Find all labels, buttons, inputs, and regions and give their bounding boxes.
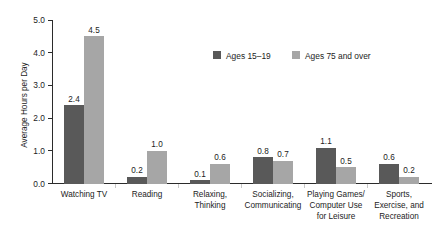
value-label-ages-15-19-watching-tv: 2.4 xyxy=(68,95,80,104)
value-label-ages-15-19-reading: 0.2 xyxy=(131,166,143,175)
value-label-ages-15-19-socializing-communicating: 0.8 xyxy=(257,147,269,156)
value-label-ages-15-19-sports-exercise-and-recreation: 0.6 xyxy=(383,153,395,162)
y-tick-label-2: 2.0 xyxy=(33,113,45,123)
value-label-ages-15-19-relaxing-thinking: 0.1 xyxy=(194,170,206,179)
y-tick-label-1: 1.0 xyxy=(33,146,45,156)
bar-ages-15-19-playing-games-computer-use-for-leisure xyxy=(316,148,336,184)
bar-ages-15-19-watching-tv xyxy=(64,105,84,183)
y-axis-title: Average Hours per Day xyxy=(20,61,29,147)
value-label-ages-15-19-playing-games-computer-use-for-leisure: 1.1 xyxy=(320,137,332,146)
bar-ages-15-19-reading xyxy=(127,177,147,184)
bar-ages-15-19-socializing-communicating xyxy=(253,157,273,183)
legend-swatch-ages-75-over xyxy=(292,51,300,59)
bar-ages-75-and-over-playing-games-computer-use-for-leisure xyxy=(336,167,356,183)
legend-label-ages-75-over: Ages 75 and over xyxy=(305,51,371,61)
category-label-playing-games-computer-use-for-leisure-line-2: for Leisure xyxy=(317,212,356,221)
category-label-playing-games-computer-use-for-leisure-line-1: Computer Use xyxy=(310,201,363,210)
bar-ages-75-and-over-watching-tv xyxy=(84,36,104,183)
bar-ages-15-19-relaxing-thinking xyxy=(190,180,210,183)
legend-swatch-ages-15-19 xyxy=(213,51,221,59)
chart-canvas: Average Hours per Day 0.0 1.0 2.0 3.0 4.… xyxy=(0,0,436,231)
value-label-ages-75-and-over-playing-games-computer-use-for-leisure: 0.5 xyxy=(340,157,352,166)
y-tick-label-3: 3.0 xyxy=(33,80,45,90)
bar-chart-figure: Average Hours per Day 0.0 1.0 2.0 3.0 4.… xyxy=(0,0,436,231)
category-label-playing-games-computer-use-for-leisure-line-0: Playing Games/ xyxy=(307,190,366,199)
category-label-sports-exercise-and-recreation-line-1: Exercise, and xyxy=(374,201,424,210)
value-label-ages-75-and-over-relaxing-thinking: 0.6 xyxy=(214,153,226,162)
value-label-ages-75-and-over-watching-tv: 4.5 xyxy=(88,26,100,35)
y-tick-label-0: 0.0 xyxy=(33,179,45,189)
value-label-ages-75-and-over-reading: 1.0 xyxy=(151,140,163,149)
bar-ages-75-and-over-sports-exercise-and-recreation xyxy=(399,177,419,184)
category-label-watching-tv-line-0: Watching TV xyxy=(61,190,108,199)
category-label-sports-exercise-and-recreation-line-0: Sports, xyxy=(386,190,412,199)
category-label-relaxing-thinking-line-0: Relaxing, xyxy=(193,190,227,199)
legend-label-ages-15-19: Ages 15–19 xyxy=(226,51,271,61)
category-label-socializing-communicating-line-0: Socializing, xyxy=(252,190,293,199)
bar-ages-75-and-over-relaxing-thinking xyxy=(210,164,230,184)
y-tick-label-4: 4.0 xyxy=(33,48,45,58)
bar-ages-15-19-sports-exercise-and-recreation xyxy=(379,164,399,184)
value-label-ages-75-and-over-sports-exercise-and-recreation: 0.2 xyxy=(403,166,415,175)
category-label-reading-line-0: Reading xyxy=(132,190,163,199)
value-label-ages-75-and-over-socializing-communicating: 0.7 xyxy=(277,150,289,159)
bar-ages-75-and-over-socializing-communicating xyxy=(273,161,293,184)
category-label-sports-exercise-and-recreation-line-2: Recreation xyxy=(379,212,419,221)
category-label-socializing-communicating-line-1: Communicating xyxy=(245,201,302,210)
y-axis-title-text: Average Hours per Day xyxy=(20,61,29,147)
category-label-relaxing-thinking-line-1: Thinking xyxy=(195,201,226,210)
bar-ages-75-and-over-reading xyxy=(147,151,167,184)
y-tick-label-5: 5.0 xyxy=(33,15,45,25)
